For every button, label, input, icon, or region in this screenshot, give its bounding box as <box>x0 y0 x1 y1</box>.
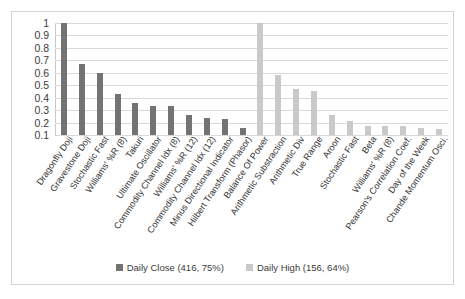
legend-label: Daily High (156, 64%) <box>257 262 349 273</box>
bar <box>150 106 156 135</box>
bar <box>61 23 67 135</box>
bar <box>257 23 263 135</box>
y-axis-tick-label: 0.5 <box>34 80 49 91</box>
legend-label: Daily Close (416, 75%) <box>127 262 224 273</box>
y-axis-tick-labels: 10.90.80.70.60.50.40.30.20.1 <box>12 23 52 135</box>
bar <box>168 106 174 135</box>
bar <box>329 115 335 135</box>
bar <box>97 73 103 135</box>
bar <box>222 119 228 135</box>
bar <box>293 89 299 135</box>
legend-swatch-icon <box>116 264 123 271</box>
y-axis-tick-label: 0.9 <box>34 30 49 41</box>
legend-swatch-icon <box>246 264 253 271</box>
bar <box>132 103 138 135</box>
y-axis-tick-label: 0.8 <box>34 43 49 54</box>
bar <box>79 64 85 135</box>
legend-item[interactable]: Daily High (156, 64%) <box>246 262 349 273</box>
bar <box>311 91 317 135</box>
y-axis-tick-label: 0.1 <box>34 130 49 141</box>
y-axis-tick-label: 0.6 <box>34 68 49 79</box>
bar <box>204 118 210 135</box>
bars-layer <box>55 23 448 135</box>
y-axis-tick-label: 1 <box>43 18 49 29</box>
legend-item[interactable]: Daily Close (416, 75%) <box>116 262 224 273</box>
chart-container: 10.90.80.70.60.50.40.30.20.1 Dragonfly D… <box>11 11 454 285</box>
y-axis-tick-label: 0.3 <box>34 105 49 116</box>
bar <box>275 75 281 135</box>
y-axis-tick-label: 0.7 <box>34 55 49 66</box>
y-axis-tick-label: 0.4 <box>34 92 49 103</box>
x-axis-category-labels: Dragonfly DojiGravestone DojiStochastic … <box>55 135 448 260</box>
bar <box>115 94 121 135</box>
y-axis-tick-label: 0.2 <box>34 117 49 128</box>
bar <box>186 115 192 135</box>
bar <box>382 126 388 135</box>
chart-legend: Daily Close (416, 75%)Daily High (156, 6… <box>12 262 453 273</box>
